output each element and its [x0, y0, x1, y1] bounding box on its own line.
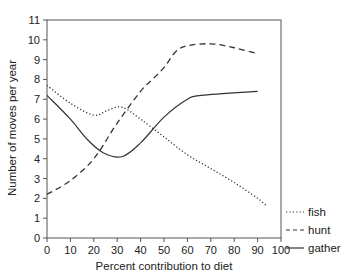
legend: fishhuntgather: [286, 206, 341, 254]
x-tick-label: 10: [64, 244, 76, 256]
y-axis: 01234567891011: [28, 14, 47, 244]
x-tick-label: 70: [205, 244, 217, 256]
plot-border: [47, 20, 281, 238]
y-tick-label: 7: [34, 93, 40, 105]
x-tick-label: 20: [88, 244, 100, 256]
y-tick-label: 4: [34, 153, 40, 165]
x-tick-label: 60: [181, 244, 193, 256]
y-tick-label: 11: [29, 14, 40, 26]
x-tick-label: 30: [111, 244, 123, 256]
legend-label-gather: gather: [308, 242, 341, 254]
plot-frame: [47, 20, 281, 238]
x-axis-title: Percent contribution to diet: [96, 260, 234, 272]
x-tick-label: 100: [272, 244, 290, 256]
y-tick-label: 0: [34, 232, 40, 244]
series-layer: [47, 44, 267, 207]
x-tick-label: 50: [158, 244, 170, 256]
y-tick-label: 3: [34, 173, 40, 185]
legend-label-hunt: hunt: [308, 224, 331, 236]
legend-label-fish: fish: [308, 206, 326, 218]
y-tick-label: 10: [28, 34, 40, 46]
line-chart: 01234567891011 0102030405060708090100 Nu…: [0, 0, 351, 276]
x-tick-label: 40: [134, 244, 146, 256]
y-tick-label: 2: [34, 192, 40, 204]
y-tick-label: 6: [34, 113, 40, 125]
y-tick-label: 9: [34, 54, 40, 66]
series-line-gather: [47, 91, 258, 157]
x-tick-label: 0: [44, 244, 50, 256]
x-axis: 0102030405060708090100: [44, 238, 290, 256]
series-line-fish: [47, 85, 267, 206]
x-tick-label: 80: [228, 244, 240, 256]
y-tick-label: 1: [34, 212, 40, 224]
y-tick-label: 5: [34, 133, 40, 145]
y-tick-label: 8: [34, 73, 40, 85]
x-tick-label: 90: [251, 244, 263, 256]
series-line-hunt: [47, 44, 258, 195]
y-axis-title: Number of moves per year: [6, 60, 18, 196]
